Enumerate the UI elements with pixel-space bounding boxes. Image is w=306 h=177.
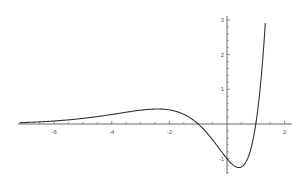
y-tick-label: 1: [221, 86, 225, 92]
x-tick-label: 2: [283, 129, 287, 135]
x-tick-label: -2: [167, 129, 173, 135]
y-tick-label: 2: [221, 52, 225, 58]
x-tick-label: -6: [52, 129, 58, 135]
data-series-curve: [20, 23, 266, 167]
line-chart: -6-4-22-1123: [0, 0, 306, 177]
tick-marks: [25, 20, 284, 173]
tick-labels: -6-4-22-1123: [52, 17, 287, 162]
x-tick-label: -4: [109, 129, 115, 135]
y-tick-label: 3: [221, 17, 225, 23]
y-tick-label: -1: [219, 156, 225, 162]
